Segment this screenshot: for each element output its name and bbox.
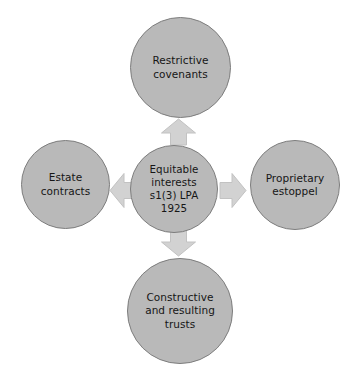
node-restrictive-covenants: Restrictive covenants xyxy=(130,17,231,118)
arrow-down-icon xyxy=(160,229,197,257)
diagram-canvas: Restrictive covenants Estate contracts E… xyxy=(0,0,358,368)
node-equitable-interests-label: Equitable interests s1(3) LPA 1925 xyxy=(146,163,203,215)
node-restrictive-covenants-label: Restrictive covenants xyxy=(148,54,212,80)
node-proprietary-estoppel: Proprietary estoppel xyxy=(250,140,340,230)
node-estate-contracts: Estate contracts xyxy=(21,140,110,229)
arrow-up-icon xyxy=(160,118,197,146)
node-proprietary-estoppel-label: Proprietary estoppel xyxy=(262,172,329,198)
node-constructive-and-resulting-trusts: Constructive and resulting trusts xyxy=(127,258,233,364)
arrow-right-icon xyxy=(219,172,247,209)
node-constructive-and-resulting-trusts-label: Constructive and resulting trusts xyxy=(141,291,219,331)
node-equitable-interests: Equitable interests s1(3) LPA 1925 xyxy=(130,145,218,233)
node-estate-contracts-label: Estate contracts xyxy=(37,171,95,197)
